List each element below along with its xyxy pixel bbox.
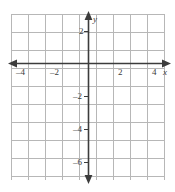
x-tick-label-pos2: 2 — [118, 68, 123, 77]
y-tick-label-pos2: 2 — [79, 27, 84, 36]
y-tick-label-neg6: –6 — [73, 158, 82, 167]
x-axis-label: x — [163, 68, 167, 77]
x-tick-label-neg4: –4 — [16, 68, 25, 77]
y-tick-label-neg4: –4 — [73, 125, 82, 134]
x-tick-label-neg2: –2 — [50, 68, 59, 77]
x-tick-label-pos4: 4 — [152, 68, 157, 77]
coordinate-plane-figure: –4 –2 2 4 2 –2 –4 –6 y x — [0, 0, 175, 192]
y-tick-label-neg2: –2 — [73, 92, 82, 101]
x-axis — [8, 60, 171, 68]
coordinate-grid-svg — [0, 0, 175, 192]
y-axis-label: y — [93, 15, 97, 24]
y-axis-ticks — [84, 32, 88, 163]
